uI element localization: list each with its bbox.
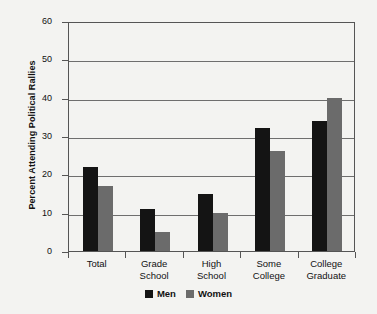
bar-men-4 [312,121,327,251]
men-swatch [145,290,153,298]
bar-men-1 [140,209,155,251]
bar-men-2 [198,194,213,252]
category-label-line1: Some [256,258,281,269]
category-label-line2: School [179,270,245,282]
legend-item-men: Men [145,288,176,299]
y-axis-tick-label: 40 [26,94,52,103]
plot-area [68,22,355,252]
x-axis-category-label: CollegeGraduate [293,258,359,281]
bar-women-4 [327,98,342,251]
bar-men-0 [83,167,98,251]
x-axis-category-label: GradeSchool [121,258,187,281]
gridline [69,100,354,101]
gridline [69,61,354,62]
category-label-line1: High [202,258,222,269]
y-axis-tick-label: 30 [26,132,52,141]
chart-legend: MenWomen [0,288,377,299]
y-axis-tick-label: 0 [26,247,52,256]
legend-label: Women [198,288,232,299]
legend-item-women: Women [186,288,232,299]
legend-label: Men [157,288,176,299]
category-label-line1: Grade [141,258,167,269]
bar-women-1 [155,232,170,251]
x-axis-category-label: Total [64,258,130,270]
women-swatch [186,290,194,298]
bar-women-2 [213,213,228,251]
gridline [69,138,354,139]
category-label-line2: Graduate [293,270,359,282]
bar-women-3 [270,151,285,251]
gridline [69,176,354,177]
category-label-line2: School [121,270,187,282]
y-axis-tick-label: 20 [26,170,52,179]
bar-men-3 [255,128,270,251]
y-axis-tick-label: 50 [26,55,52,64]
category-label-line2: College [236,270,302,282]
x-axis-category-label: SomeCollege [236,258,302,281]
y-axis-tick-label: 10 [26,209,52,218]
x-axis-category-label: HighSchool [179,258,245,281]
category-label-line1: Total [87,258,107,269]
bar-chart: Percent Attending Political Rallies 0102… [0,0,377,314]
y-axis-tick-label: 60 [26,17,52,26]
category-label-line1: College [310,258,342,269]
bar-women-0 [98,186,113,251]
